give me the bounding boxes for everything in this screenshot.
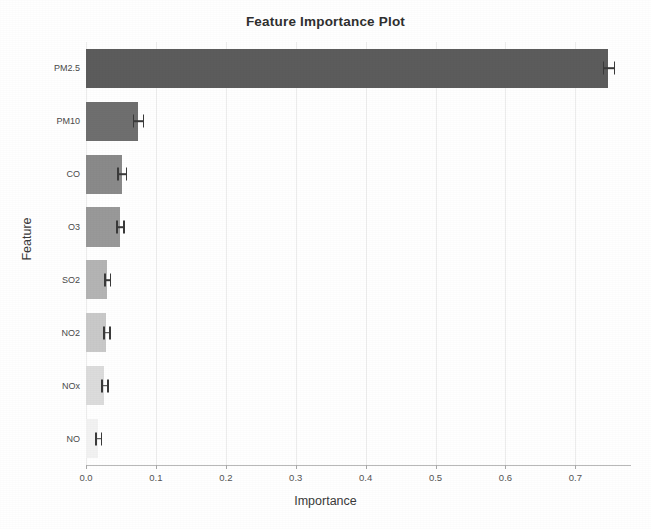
gridline [156, 42, 157, 465]
error-bar-cap [614, 62, 616, 75]
error-bar-line [603, 68, 614, 70]
y-axis-tick-label: SO2 [8, 275, 80, 285]
y-axis-tick-label: NOx [8, 381, 80, 391]
feature-importance-chart: Feature Importance Plot Feature Importan… [0, 0, 651, 529]
gridline [296, 42, 297, 465]
x-axis-tick [436, 465, 437, 469]
y-axis-tick-label: PM2.5 [8, 63, 80, 73]
error-bar-cap [126, 168, 128, 181]
chart-title: Feature Importance Plot [0, 14, 651, 29]
y-axis-tick-label: CO [8, 169, 80, 179]
error-bar-cap [109, 326, 111, 339]
error-bar-cap [133, 115, 135, 128]
x-axis-tick [366, 465, 367, 469]
error-bar-cap [117, 168, 119, 181]
y-axis-tick-label: O3 [8, 222, 80, 232]
x-axis-tick [226, 465, 227, 469]
bar [86, 155, 122, 194]
error-bar-cap [104, 273, 106, 286]
x-axis-tick-label: 0.6 [485, 472, 525, 483]
bar [86, 102, 138, 141]
error-bar-cap [123, 221, 125, 234]
x-axis-tick [86, 465, 87, 469]
x-axis-tick-label: 0.5 [416, 472, 456, 483]
x-axis-tick-label: 0.3 [276, 472, 316, 483]
x-axis-tick [156, 465, 157, 469]
error-bar-cap [101, 379, 103, 392]
gridline [575, 42, 576, 465]
gridline [226, 42, 227, 465]
x-axis-line [86, 465, 631, 466]
gridline [505, 42, 506, 465]
x-axis-tick [505, 465, 506, 469]
error-bar-cap [603, 62, 605, 75]
gridline [366, 42, 367, 465]
error-bar-cap [101, 432, 103, 445]
y-axis-tick-label: NO2 [8, 328, 80, 338]
x-axis-tick [575, 465, 576, 469]
y-axis-tick-labels: PM2.5PM10COO3SO2NO2NOxNO [0, 0, 80, 529]
x-axis-tick [296, 465, 297, 469]
x-axis-tick-label: 0.2 [206, 472, 246, 483]
error-bar-cap [116, 221, 118, 234]
x-axis-tick-label: 0.4 [346, 472, 386, 483]
error-bar-cap [143, 115, 145, 128]
x-axis-title: Importance [0, 494, 651, 508]
y-axis-tick-label: PM10 [8, 116, 80, 126]
gridline [436, 42, 437, 465]
x-axis-tick-label: 0.1 [136, 472, 176, 483]
error-bar-cap [110, 273, 112, 286]
error-bar-cap [95, 432, 97, 445]
y-axis-tick-label: NO [8, 434, 80, 444]
x-axis-tick-label: 0.7 [555, 472, 595, 483]
bar [86, 49, 608, 88]
plot-area [86, 42, 625, 465]
x-axis-tick-label: 0.0 [66, 472, 106, 483]
error-bar-cap [107, 379, 109, 392]
bar [86, 207, 120, 246]
error-bar-cap [103, 326, 105, 339]
